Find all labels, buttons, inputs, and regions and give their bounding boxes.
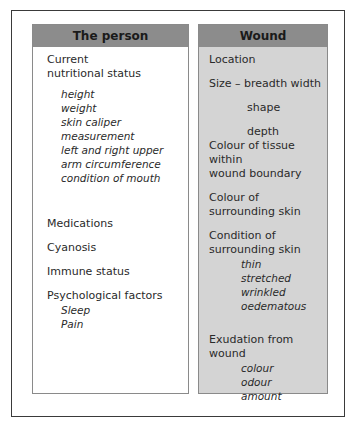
condition-subitem: stretched — [209, 271, 327, 285]
condition-subitem: thin — [209, 257, 327, 271]
wound-column: Wound Location Size – breadth width shap… — [198, 24, 328, 394]
size-item: Size – breadth width — [209, 77, 327, 91]
tissue-colour-line2: wound boundary — [209, 167, 327, 181]
wound-column-header: Wound — [199, 25, 327, 47]
size-depth: depth — [209, 125, 327, 139]
exudation-subitem: colour — [209, 361, 327, 375]
psych-subitem: Sleep — [47, 303, 188, 317]
size-shape: shape — [209, 101, 327, 115]
nutrition-title-line1: Current — [47, 53, 188, 67]
nutrition-subitem: skin caliper measurement — [47, 115, 188, 143]
nutrition-subitem: left and right upper — [47, 143, 188, 157]
surrounding-condition-line2: surrounding skin — [209, 243, 327, 257]
nutrition-subitem: weight — [47, 101, 188, 115]
psychological-factors-item: Psychological factors — [47, 289, 188, 303]
surrounding-condition-line1: Condition of — [209, 229, 327, 243]
nutrition-subitem: arm circumference — [47, 157, 188, 171]
person-column-body: Current nutritional status height weight… — [33, 47, 188, 331]
nutrition-subitem: height — [47, 87, 188, 101]
nutrition-title-line2: nutritional status — [47, 67, 188, 81]
wound-column-body: Location Size – breadth width shape dept… — [199, 47, 327, 403]
exudation-subitem: odour — [209, 375, 327, 389]
cyanosis-item: Cyanosis — [47, 241, 188, 255]
exudation-subitem: amount — [209, 389, 327, 403]
person-column: The person Current nutritional status he… — [32, 24, 189, 394]
condition-subitem: oedematous — [209, 299, 327, 313]
exudation-item: Exudation from wound — [209, 333, 327, 361]
surrounding-colour-line1: Colour of — [209, 191, 327, 205]
surrounding-colour-line2: surrounding skin — [209, 205, 327, 219]
psych-subitem: Pain — [47, 317, 188, 331]
condition-subitem: wrinkled — [209, 285, 327, 299]
person-column-header: The person — [33, 25, 188, 47]
location-item: Location — [209, 53, 327, 67]
nutrition-subitem: condition of mouth — [47, 171, 188, 185]
medications-item: Medications — [47, 217, 188, 231]
immune-status-item: Immune status — [47, 265, 188, 279]
tissue-colour-line1: Colour of tissue within — [209, 139, 327, 167]
